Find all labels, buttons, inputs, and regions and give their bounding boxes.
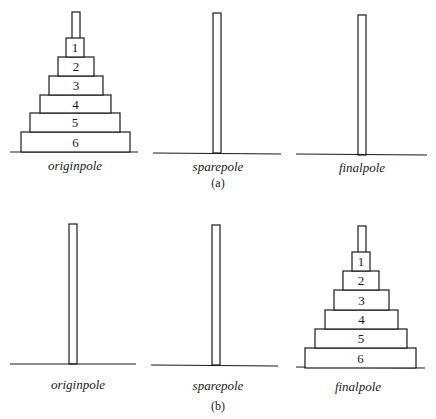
pole-base xyxy=(153,153,281,154)
disk-4-label: 4 xyxy=(72,97,79,112)
panel-a-finalpole: finalpole xyxy=(296,15,427,175)
disk-5-label: 5 xyxy=(358,331,365,346)
disk-6-label: 6 xyxy=(357,351,364,366)
disk-1-label: 1 xyxy=(72,40,79,55)
pole xyxy=(213,13,221,153)
pole-base xyxy=(296,154,427,155)
towers-of-hanoi-diagram: 6 5 4 3 2 1 originpole sparepole finalpo… xyxy=(0,0,436,419)
panel-b-originpole: originpole xyxy=(10,224,136,392)
pole xyxy=(212,225,220,365)
panel-caption-b: (b) xyxy=(211,399,225,413)
disk-2-label: 2 xyxy=(73,59,80,74)
pole-label-finalpole: finalpole xyxy=(335,379,381,394)
panel-a-originpole: 6 5 4 3 2 1 originpole xyxy=(10,12,138,173)
disk-3-label: 3 xyxy=(73,78,80,93)
panel-a-sparepole: sparepole xyxy=(153,13,281,174)
disk-6-label: 6 xyxy=(72,135,79,150)
panel-a: 6 5 4 3 2 1 originpole sparepole finalpo… xyxy=(10,12,427,190)
panel-b-finalpole: 6 5 4 3 2 1 finalpole xyxy=(296,226,425,394)
disk-2-label: 2 xyxy=(358,273,365,288)
pole-base xyxy=(151,365,278,366)
pole-label-originpole: originpole xyxy=(48,158,102,173)
panel-b: originpole sparepole 6 5 4 3 2 1 finalpo… xyxy=(10,224,425,413)
panel-b-sparepole: sparepole xyxy=(151,225,278,393)
disk-5-label: 5 xyxy=(72,115,79,130)
disk-3-label: 3 xyxy=(358,293,365,308)
disk-4-label: 4 xyxy=(358,312,365,327)
disk-1-label: 1 xyxy=(358,254,365,269)
pole xyxy=(69,224,77,364)
panel-caption-a: (a) xyxy=(211,176,224,190)
pole-label-sparepole: sparepole xyxy=(193,159,244,174)
pole-label-originpole: originpole xyxy=(51,377,105,392)
pole-label-sparepole: sparepole xyxy=(193,378,244,393)
pole xyxy=(358,15,366,155)
pole-label-finalpole: finalpole xyxy=(339,160,385,175)
